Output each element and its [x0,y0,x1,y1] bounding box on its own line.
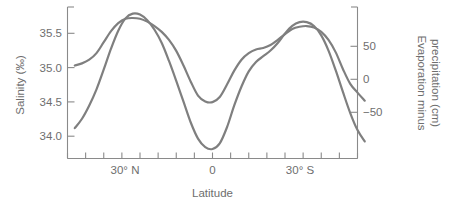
left-tick-label-2: 34.5 [40,96,62,108]
y-axis-title: Salinity (‰) [14,55,26,115]
left-axis-ticks [68,33,75,136]
y2-axis-title-line1: Evaporation minus [416,35,428,130]
y2-axis-title-line2: precipitation (cm) [430,39,442,127]
x-axis-title: Latitude [192,187,233,199]
x-tick-label-0: 30° N [111,164,140,176]
chart-canvas: 35.5 35.0 34.5 34.0 50 0 −50 30° N 0 30°… [0,0,452,212]
x-tick-label-2: 30° S [286,164,315,176]
chart-figure: 35.5 35.0 34.5 34.0 50 0 −50 30° N 0 30°… [0,0,452,212]
x-tick-label-1: 0 [209,164,215,176]
left-tick-label-1: 35.0 [40,62,62,74]
series-line-evaporation-minus-precipitation [75,13,365,149]
bottom-axis-ticks [68,153,358,159]
right-tick-label-2: −50 [363,106,383,118]
right-axis-ticks [351,46,358,112]
right-tick-label-0: 50 [363,40,376,52]
left-tick-label-0: 35.5 [40,27,62,39]
left-tick-label-3: 34.0 [40,130,62,142]
right-tick-label-1: 0 [363,73,369,85]
